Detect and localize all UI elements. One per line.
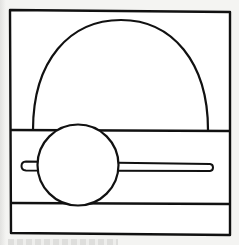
caption-text: illegible: [8, 239, 9, 240]
band-top-line: [10, 130, 230, 131]
diagram-canvas: [0, 0, 239, 245]
small-circle: [38, 125, 119, 206]
band-bottom-line: [11, 203, 230, 204]
caption-illegible: illegible: [8, 239, 118, 245]
